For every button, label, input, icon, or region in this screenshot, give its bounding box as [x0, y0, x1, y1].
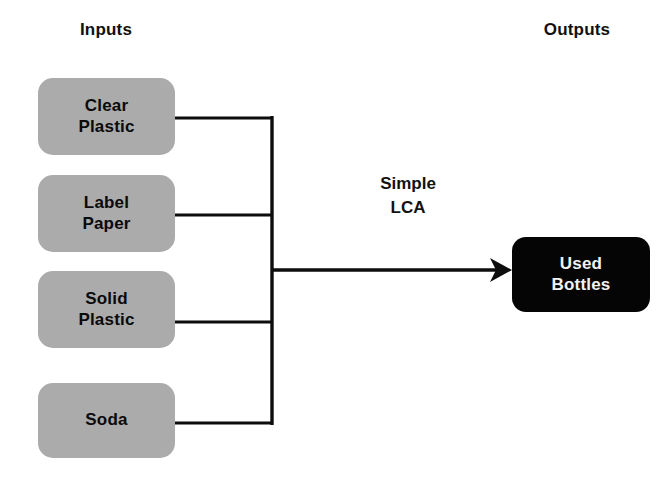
input-node-label-paper[interactable]: Label Paper	[38, 175, 175, 252]
input-node-clear-plastic[interactable]: Clear Plastic	[38, 78, 175, 155]
process-label: Simple LCA	[380, 172, 436, 220]
input-node-label: Clear Plastic	[78, 96, 134, 137]
output-node-label-line1: Used	[551, 254, 610, 275]
input-node-label-line1: Soda	[85, 410, 127, 431]
output-node-label: Used Bottles	[551, 254, 610, 295]
outputs-column-heading: Outputs	[544, 20, 611, 40]
input-node-label-line1: Clear	[78, 96, 134, 117]
input-node-soda[interactable]: Soda	[38, 383, 175, 458]
arrowhead-icon	[490, 258, 512, 282]
process-label-line1: Simple	[380, 172, 436, 196]
input-node-label: Solid Plastic	[78, 289, 134, 330]
input-node-label-line2: Plastic	[78, 310, 134, 331]
output-node-label-line2: Bottles	[551, 275, 610, 296]
diagram-canvas: Inputs Outputs Clear Plastic Label Paper…	[0, 0, 669, 483]
input-node-label-line1: Solid	[78, 289, 134, 310]
input-node-label-line2: Paper	[82, 214, 130, 235]
input-node-label: Soda	[85, 410, 127, 431]
inputs-column-heading: Inputs	[80, 20, 132, 40]
input-node-label-line2: Plastic	[78, 117, 134, 138]
input-node-label: Label Paper	[82, 193, 130, 234]
output-node-used-bottles[interactable]: Used Bottles	[512, 237, 650, 312]
input-node-label-line1: Label	[82, 193, 130, 214]
input-node-solid-plastic[interactable]: Solid Plastic	[38, 271, 175, 348]
process-label-line2: LCA	[380, 196, 436, 220]
